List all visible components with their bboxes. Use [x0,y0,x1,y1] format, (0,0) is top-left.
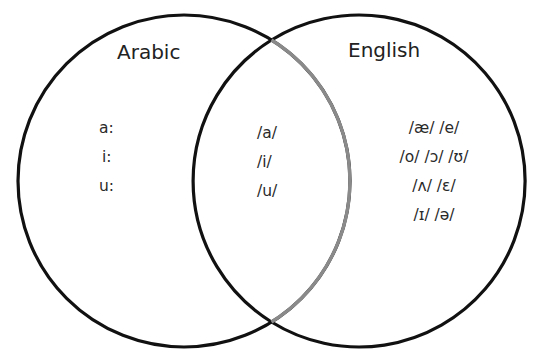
list-item: i: [99,143,114,172]
list-item: /o/ /ɔ/ /ʊ/ [378,143,490,172]
list-item: /ɪ/ /ə/ [378,201,490,230]
list-item: /u/ [257,177,277,206]
list-item: /æ/ /e/ [378,114,490,143]
english-only-list: /æ/ /e/ /o/ /ɔ/ /ʊ/ /ʌ/ /ɛ/ /ɪ/ /ə/ [378,114,490,230]
arabic-only-list: a: i: u: [99,114,114,201]
list-item: a: [99,114,114,143]
arabic-circle-inner-arc [272,40,350,322]
list-item: /a/ [257,119,277,148]
list-item: /i/ [257,148,277,177]
english-set-label: English [348,38,420,62]
intersection-list: /a/ /i/ /u/ [257,119,277,206]
list-item: /ʌ/ /ɛ/ [378,172,490,201]
list-item: u: [99,172,114,201]
arabic-set-label: Arabic [117,40,180,64]
